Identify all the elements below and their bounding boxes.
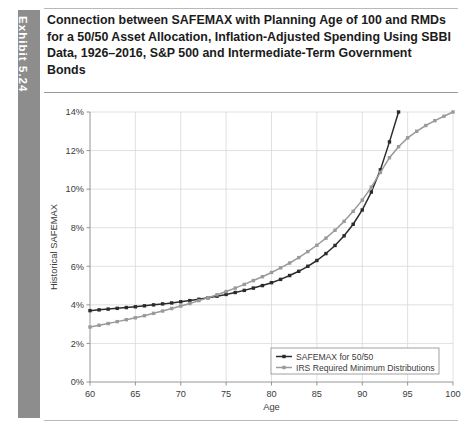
data-point-marker	[116, 320, 119, 323]
data-point-marker	[234, 286, 237, 289]
data-point-marker	[306, 250, 309, 253]
data-point-marker	[451, 110, 454, 113]
top-divider-rule	[44, 8, 458, 9]
data-point-marker	[361, 208, 364, 211]
data-point-marker	[215, 293, 218, 296]
x-axis-tick-label: 85	[312, 389, 322, 399]
x-axis-tick-label: 95	[403, 389, 413, 399]
bottom-divider-rule	[44, 420, 458, 421]
data-point-marker	[179, 300, 182, 303]
data-point-marker	[97, 308, 100, 311]
data-point-marker	[88, 309, 91, 312]
legend-label-0: SAFEMAX for 50/50	[296, 352, 374, 362]
data-point-marker	[279, 266, 282, 269]
data-point-marker	[297, 256, 300, 259]
data-point-marker	[297, 270, 300, 273]
exhibit-number-tab: Exhibit 5.24	[18, 10, 40, 418]
data-point-marker	[370, 190, 373, 193]
x-axis-tick-label: 100	[445, 389, 460, 399]
legend-marker-1	[282, 366, 285, 369]
data-point-marker	[152, 303, 155, 306]
data-point-marker	[197, 299, 200, 302]
data-point-marker	[243, 283, 246, 286]
y-axis-tick-label: 0%	[71, 377, 84, 387]
x-axis-tick-label: 65	[130, 389, 140, 399]
data-point-marker	[379, 171, 382, 174]
x-axis-tick-label: 70	[176, 389, 186, 399]
data-point-marker	[324, 236, 327, 239]
data-point-marker	[125, 318, 128, 321]
data-point-marker	[333, 229, 336, 232]
data-point-marker	[206, 296, 209, 299]
data-point-marker	[97, 324, 100, 327]
data-point-marker	[415, 130, 418, 133]
legend-marker-0	[282, 355, 285, 358]
data-point-marker	[406, 136, 409, 139]
data-point-marker	[397, 145, 400, 148]
data-point-marker	[179, 304, 182, 307]
data-point-marker	[261, 275, 264, 278]
chart-container: 0%2%4%6%8%10%12%14%6065707580859095100Ag…	[44, 96, 462, 416]
data-point-marker	[342, 220, 345, 223]
data-point-marker	[370, 186, 373, 189]
data-point-marker	[188, 302, 191, 305]
data-point-marker	[288, 274, 291, 277]
data-point-marker	[170, 301, 173, 304]
data-point-marker	[116, 307, 119, 310]
y-axis-tick-label: 4%	[71, 300, 84, 310]
exhibit-page: Exhibit 5.24 Connection between SAFEMAX …	[0, 0, 466, 441]
data-point-marker	[125, 306, 128, 309]
y-axis-tick-label: 2%	[71, 339, 84, 349]
data-point-marker	[324, 252, 327, 255]
data-point-marker	[106, 322, 109, 325]
y-axis-tick-label: 14%	[66, 107, 84, 117]
legend-label-1: IRS Required Minimum Distributions	[296, 363, 435, 373]
data-point-marker	[152, 312, 155, 315]
data-point-marker	[306, 265, 309, 268]
data-point-marker	[433, 119, 436, 122]
data-point-marker	[351, 223, 354, 226]
x-axis-tick-label: 60	[85, 389, 95, 399]
data-point-marker	[261, 284, 264, 287]
data-point-marker	[361, 198, 364, 201]
data-point-marker	[234, 291, 237, 294]
y-axis-tick-label: 12%	[66, 146, 84, 156]
data-point-marker	[134, 305, 137, 308]
data-point-marker	[279, 278, 282, 281]
x-axis-title: Age	[263, 401, 280, 412]
y-axis-tick-label: 10%	[66, 184, 84, 194]
y-axis-tick-label: 8%	[71, 223, 84, 233]
data-point-marker	[188, 299, 191, 302]
data-point-marker	[333, 244, 336, 247]
data-point-marker	[106, 307, 109, 310]
data-point-marker	[161, 302, 164, 305]
data-point-marker	[442, 115, 445, 118]
data-point-marker	[252, 286, 255, 289]
data-point-marker	[351, 210, 354, 213]
x-axis-tick-label: 90	[357, 389, 367, 399]
data-point-marker	[224, 290, 227, 293]
data-point-marker	[424, 124, 427, 127]
data-point-marker	[88, 325, 91, 328]
data-point-marker	[243, 289, 246, 292]
data-point-marker	[388, 156, 391, 159]
exhibit-number-label: Exhibit 5.24	[17, 16, 29, 93]
line-chart: 0%2%4%6%8%10%12%14%6065707580859095100Ag…	[44, 96, 462, 416]
y-axis-tick-label: 6%	[71, 262, 84, 272]
data-point-marker	[143, 304, 146, 307]
data-point-marker	[143, 314, 146, 317]
exhibit-title: Connection between SAFEMAX with Planning…	[47, 12, 451, 78]
y-axis-title: Historical SAFEMAX	[48, 203, 59, 290]
data-point-marker	[388, 140, 391, 143]
data-point-marker	[315, 259, 318, 262]
data-point-marker	[270, 281, 273, 284]
data-point-marker	[252, 279, 255, 282]
data-point-marker	[288, 261, 291, 264]
x-axis-tick-label: 75	[221, 389, 231, 399]
data-point-marker	[134, 316, 137, 319]
data-point-marker	[315, 244, 318, 247]
data-point-marker	[270, 271, 273, 274]
data-point-marker	[161, 309, 164, 312]
data-point-marker	[397, 110, 400, 113]
data-point-marker	[342, 234, 345, 237]
